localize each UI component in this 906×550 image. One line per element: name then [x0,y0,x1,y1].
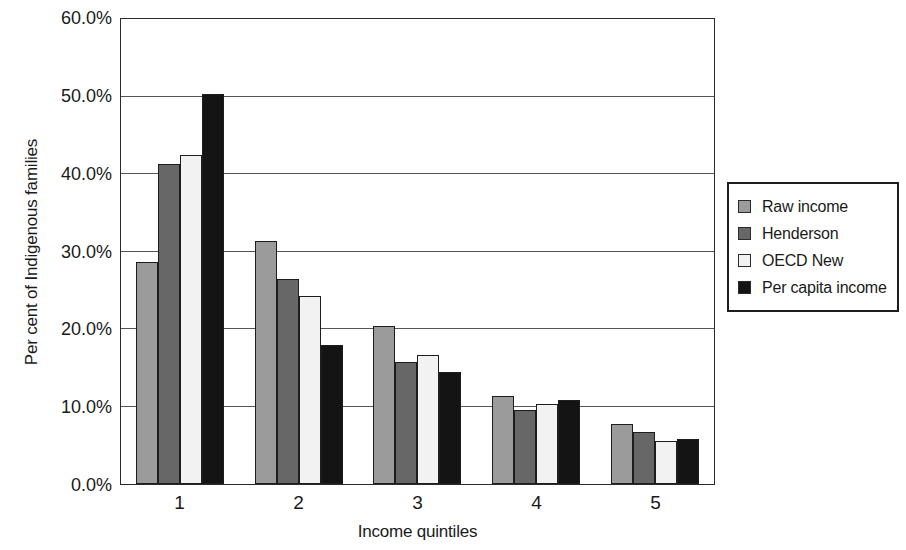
bar-group [477,19,596,484]
bar [536,404,558,484]
bar [417,355,439,484]
x-axis-tick-label: 4 [477,492,596,514]
x-axis-tick-label: 1 [120,492,239,514]
y-axis-tick-label: 0.0% [28,476,112,494]
bar-group [595,19,714,484]
legend-label: OECD New [762,252,843,270]
legend-label: Raw income [762,198,848,216]
legend-label: Per capita income [762,279,887,297]
bar [558,400,580,484]
bar [158,164,180,484]
legend-swatch-icon [738,227,751,240]
bar [633,432,655,484]
bar [136,262,158,484]
bar [492,396,514,484]
bar [255,241,277,484]
bar-chart: Per cent of Indigenous families 0.0%10.0… [0,0,906,550]
bar-group [240,19,359,484]
y-axis-tick-label: 20.0% [28,320,112,338]
legend-swatch-icon [738,281,751,294]
bar [395,362,417,484]
bar [514,410,536,484]
x-axis-tick-label: 5 [596,492,715,514]
legend-item: OECD New [738,247,889,274]
x-axis-tick-labels: 12345 [120,492,715,514]
legend-item: Raw income [738,193,889,220]
x-axis-title: Income quintiles [120,522,715,542]
bar [677,439,699,484]
legend-item: Per capita income [738,274,889,301]
legend-label: Henderson [762,225,838,243]
y-axis-tick-label: 30.0% [28,243,112,261]
bar [299,296,321,484]
y-axis-tick-labels: 0.0%10.0%20.0%30.0%40.0%50.0%60.0% [28,0,112,550]
y-axis-tick-label: 50.0% [28,87,112,105]
bar [439,372,461,484]
y-axis-tick-label: 60.0% [28,9,112,27]
bar [180,155,202,484]
legend: Raw incomeHendersonOECD NewPer capita in… [727,182,899,312]
y-axis-tick-label: 40.0% [28,165,112,183]
bars-layer [121,19,714,484]
bar-group [121,19,240,484]
bar [202,94,224,484]
y-axis-tick-label: 10.0% [28,398,112,416]
legend-item: Henderson [738,220,889,247]
bar [373,326,395,484]
bar-group [358,19,477,484]
x-axis-tick-label: 2 [239,492,358,514]
legend-swatch-icon [738,254,751,267]
x-axis-tick-label: 3 [358,492,477,514]
legend-swatch-icon [738,200,751,213]
plot-area [120,18,715,485]
bar [655,441,677,484]
bar [321,345,343,484]
bar [277,279,299,484]
bar [611,424,633,484]
